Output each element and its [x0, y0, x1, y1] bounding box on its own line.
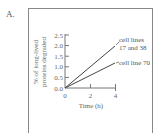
- svg-text:2.5: 2.5: [54, 32, 63, 40]
- y-ticks: [65, 35, 69, 77]
- legend-label-cell-lines-17-38-line2: 17 and 38: [119, 44, 147, 52]
- svg-text:1.5: 1.5: [54, 53, 63, 61]
- svg-text:0.0: 0.0: [54, 85, 63, 93]
- svg-text:proteins degraded: proteins degraded: [40, 37, 48, 87]
- y-tick-labels: 2.5 2.0 1.5 1.0 0.5 0.0: [54, 32, 63, 93]
- svg-text:4: 4: [114, 92, 118, 100]
- legend-label-cell-lines-17-38-line1: cell lines: [119, 36, 144, 44]
- svg-text:2: 2: [89, 92, 93, 100]
- svg-text:1.0: 1.0: [54, 63, 63, 71]
- svg-text:0.5: 0.5: [54, 74, 63, 82]
- svg-text:0: 0: [63, 92, 67, 100]
- legend-label-cell-line-70: cell line 70: [119, 59, 151, 67]
- line-chart: 2.5 2.0 1.5 1.0 0.5 0.0 0 2 4 Time (h) %…: [0, 0, 158, 133]
- svg-text:2.0: 2.0: [54, 42, 63, 50]
- y-axis-title: % of long-lived proteins degraded: [32, 37, 48, 87]
- x-axis-title: Time (h): [79, 102, 104, 110]
- x-tick-labels: 0 2 4: [63, 92, 118, 100]
